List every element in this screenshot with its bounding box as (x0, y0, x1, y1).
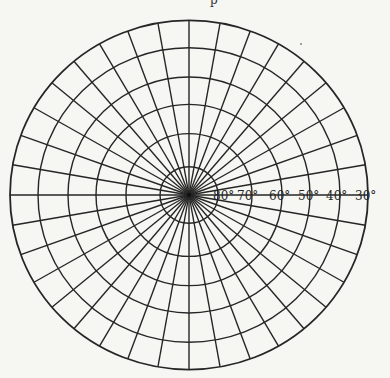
polar-grid-diagram: p 80°70°60°50°40°30° (0, 0, 390, 378)
speck (300, 43, 302, 45)
latitude-label: 30° (355, 189, 376, 203)
latitude-label: 80° (213, 189, 234, 203)
latitude-label: 40° (326, 189, 347, 203)
title-fragment: p (210, 0, 218, 7)
pole-dot (187, 193, 191, 197)
latitude-label: 70° (237, 189, 258, 203)
latitude-labels: 80°70°60°50°40°30° (213, 189, 376, 203)
latitude-label: 50° (298, 189, 319, 203)
latitude-label: 60° (269, 189, 290, 203)
